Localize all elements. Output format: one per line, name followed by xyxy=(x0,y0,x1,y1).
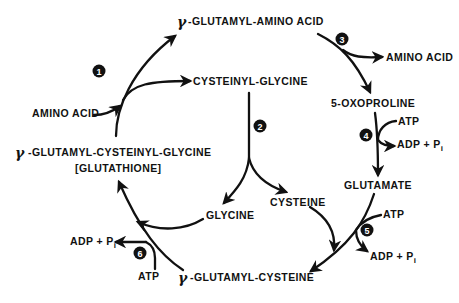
gamma-glutamyl-cycle-diagram: γ -GLUTAMYL-AMINO ACID CYSTEINYL-GLYCINE… xyxy=(0,0,459,303)
glutamate-label: GLUTAMATE xyxy=(344,179,412,191)
glutathione-full-label: -GLUTAMYL-CYSTEINYL-GLYCINE xyxy=(28,146,211,158)
step6-adp-label: ADP + Pi xyxy=(70,235,116,250)
svg-text:4: 4 xyxy=(363,131,368,141)
node-gamma-glutamyl-cysteine: γ -GLUTAMYL-CYSTEINE xyxy=(178,270,314,286)
step6-atp-in xyxy=(146,242,155,269)
amino-acid-output-label: AMINO ACID xyxy=(386,51,453,63)
cysteinyl-glycine-label: CYSTEINYL-GLYCINE xyxy=(193,75,308,87)
amino-acid-input-label: AMINO ACID xyxy=(32,107,99,119)
step4-adp-label: ADP + Pi xyxy=(397,138,443,153)
step-3-badge: 3 xyxy=(336,33,349,46)
svg-text:6: 6 xyxy=(137,249,142,259)
gamma-symbol: γ xyxy=(15,145,25,161)
step2-glycine-arrow xyxy=(224,158,249,203)
gamma-glutamyl-amino-acid-label: -GLUTAMYL-AMINO ACID xyxy=(188,15,324,27)
cysteine-label: CYSTEINE xyxy=(270,196,326,208)
svg-text:5: 5 xyxy=(364,226,369,236)
step6-glycine-in xyxy=(138,219,203,228)
step5-adp-label: ADP + Pi xyxy=(370,250,416,265)
node-gamma-glutamyl-amino-acid: γ -GLUTAMYL-AMINO ACID xyxy=(177,14,324,30)
step-4-badge: 4 xyxy=(360,129,373,142)
oxoproline-label: 5-OXOPROLINE xyxy=(331,97,415,109)
svg-text:3: 3 xyxy=(339,35,344,45)
step1-cysteinyl-glycine-arrow xyxy=(123,81,190,100)
step-2-badge: 2 xyxy=(254,120,267,133)
step6-atp-label: ATP xyxy=(138,270,159,282)
step1-main-arrow xyxy=(116,36,175,136)
step4-main-arrow xyxy=(375,113,378,175)
svg-text:2: 2 xyxy=(257,122,262,132)
step-1-badge: 1 xyxy=(93,65,106,78)
step-6-badge: 6 xyxy=(134,247,147,260)
step4-atp-in xyxy=(378,121,396,140)
step2-cysteine-arrow xyxy=(249,158,286,192)
gamma-glutamyl-cysteine-label: -GLUTAMYL-CYSTEINE xyxy=(190,271,314,283)
gamma-symbol: γ xyxy=(178,270,188,286)
gamma-symbol: γ xyxy=(177,14,187,30)
step4-atp-label: ATP xyxy=(398,115,419,127)
step5-cysteine-in xyxy=(310,207,334,250)
step4-adp-out xyxy=(378,140,394,146)
step5-atp-label: ATP xyxy=(383,208,404,220)
glutathione-name-label: [GLUTATHIONE] xyxy=(75,162,161,174)
step-5-badge: 5 xyxy=(361,224,374,237)
glycine-label: GLYCINE xyxy=(206,209,255,221)
node-glutathione: γ -GLUTAMYL-CYSTEINYL-GLYCINE [GLUTATHIO… xyxy=(15,145,211,174)
svg-text:1: 1 xyxy=(96,67,101,77)
